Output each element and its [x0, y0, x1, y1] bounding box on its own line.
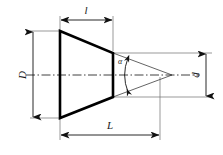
apex-line-lower — [113, 75, 172, 97]
dimension-label-d: d — [189, 72, 201, 78]
dimension-d: d — [189, 54, 206, 96]
dimension-D: D — [16, 32, 33, 117]
dimension-L: L — [61, 119, 159, 135]
dimension-label-L: L — [106, 119, 113, 131]
dimension-label-l: l — [84, 4, 87, 16]
frustum-outline — [60, 31, 113, 118]
angle-label-alpha: α — [118, 57, 123, 66]
dimension-alpha: α — [118, 57, 128, 92]
extension-lines — [30, 16, 212, 140]
diagram-canvas: l D d L α — [0, 0, 223, 155]
dimension-l: l — [61, 4, 112, 20]
technical-drawing-figure: l D d L α — [0, 0, 223, 155]
dimension-label-D: D — [16, 71, 28, 80]
